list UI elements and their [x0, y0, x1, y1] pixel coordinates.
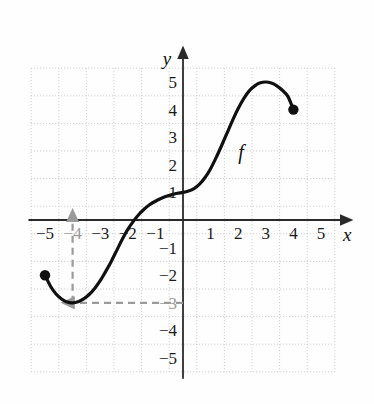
y-tick-label: −4	[159, 321, 178, 340]
right-endpoint	[288, 104, 298, 114]
x-tick-label: −5	[36, 224, 54, 243]
y-tick-label: −1	[159, 239, 177, 258]
plot-canvas: −5−4−3−2−11234554321−1−2−3−4−5 yxf	[0, 0, 374, 404]
x-tick-label: 2	[234, 224, 243, 243]
x-axis-label: x	[342, 224, 352, 245]
x-tick-label: 4	[289, 224, 298, 243]
y-axis-label: y	[161, 48, 172, 69]
x-tick-label: −2	[119, 224, 137, 243]
curve-label: f	[238, 141, 246, 164]
y-tick-label: 2	[169, 156, 178, 175]
y-tick-label: 1	[169, 183, 178, 202]
x-tick-label: −3	[91, 224, 109, 243]
y-tick-label: −3	[159, 294, 177, 313]
y-tick-label: 5	[169, 73, 178, 92]
x-tick-label: −4	[64, 224, 83, 243]
y-tick-label: −5	[159, 349, 177, 368]
left-endpoint	[40, 270, 50, 280]
y-tick-label: 3	[169, 128, 178, 147]
x-tick-label: 1	[206, 224, 215, 243]
graph-figure: −5−4−3−2−11234554321−1−2−3−4−5 yxf	[0, 0, 374, 404]
x-tick-label: 3	[262, 224, 271, 243]
x-tick-label: 5	[317, 224, 326, 243]
y-tick-label: −2	[159, 266, 177, 285]
axis-and-curve-labels: yxf	[161, 48, 352, 245]
y-tick-label: 4	[169, 101, 178, 120]
